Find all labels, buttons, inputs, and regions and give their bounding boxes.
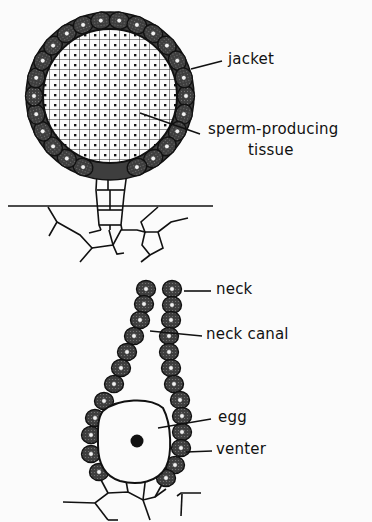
- cell-nucleus: [142, 302, 147, 307]
- cell-nucleus: [93, 416, 98, 421]
- cell-nucleus: [151, 156, 156, 161]
- cell-nucleus: [181, 75, 186, 80]
- cell-nucleus: [164, 476, 169, 481]
- cell-nucleus: [132, 334, 137, 339]
- cell-nucleus: [81, 165, 86, 170]
- cell-nucleus: [64, 156, 69, 161]
- cell-nucleus: [184, 94, 189, 99]
- cell-nucleus: [40, 58, 45, 63]
- cell-nucleus: [34, 75, 39, 80]
- sperm-producing-tissue: [43, 29, 177, 163]
- cell-nucleus: [172, 382, 177, 387]
- cell-nucleus: [98, 18, 103, 23]
- venter-leader: [186, 451, 212, 452]
- cell-nucleus: [181, 112, 186, 117]
- cell-nucleus: [179, 446, 184, 451]
- cell-nucleus: [151, 31, 156, 36]
- label-jacket: jacket: [228, 50, 274, 68]
- label-venter: venter: [216, 440, 266, 458]
- cell-nucleus: [135, 23, 140, 28]
- archegonium: [63, 281, 201, 521]
- cell-nucleus: [170, 287, 175, 292]
- cell-nucleus: [138, 318, 143, 323]
- substrate: [8, 206, 213, 262]
- cell-nucleus: [64, 31, 69, 36]
- cell-nucleus: [89, 452, 94, 457]
- cell-nucleus: [167, 350, 172, 355]
- label-egg: egg: [218, 408, 247, 426]
- cell-nucleus: [173, 463, 178, 468]
- cell-nucleus: [125, 350, 130, 355]
- cell-nucleus: [34, 112, 39, 117]
- cell-nucleus: [32, 94, 37, 99]
- cell-nucleus: [144, 287, 149, 292]
- cell-nucleus: [51, 144, 56, 149]
- cell-nucleus: [180, 430, 185, 435]
- cell-nucleus: [175, 58, 180, 63]
- jacket-leader: [191, 61, 222, 69]
- label-neck-canal: neck canal: [206, 325, 289, 343]
- cell-nucleus: [167, 334, 172, 339]
- cell-nucleus: [119, 366, 124, 371]
- cell-nucleus: [169, 318, 174, 323]
- label-tissue: tissue: [248, 141, 294, 159]
- cell-nucleus: [165, 43, 170, 48]
- cell-nucleus: [178, 398, 183, 403]
- cell-nucleus: [97, 470, 102, 475]
- cell-nucleus: [165, 144, 170, 149]
- diagram-canvas: [0, 0, 372, 522]
- cell-nucleus: [40, 129, 45, 134]
- cell-nucleus: [51, 43, 56, 48]
- cell-nucleus: [170, 303, 175, 308]
- antheridium: [8, 11, 213, 262]
- cell-nucleus: [102, 399, 107, 404]
- cell-nucleus: [89, 433, 94, 438]
- cell-nucleus: [169, 366, 174, 371]
- cell-nucleus: [135, 165, 140, 170]
- label-sperm-producing: sperm-producing: [208, 120, 339, 138]
- cell-nucleus: [112, 382, 117, 387]
- cell-nucleus: [117, 18, 122, 23]
- cell-nucleus: [81, 23, 86, 28]
- cell-nucleus: [180, 414, 185, 419]
- egg-nucleus: [131, 435, 144, 448]
- label-neck: neck: [216, 280, 252, 298]
- cell-nucleus: [175, 129, 180, 134]
